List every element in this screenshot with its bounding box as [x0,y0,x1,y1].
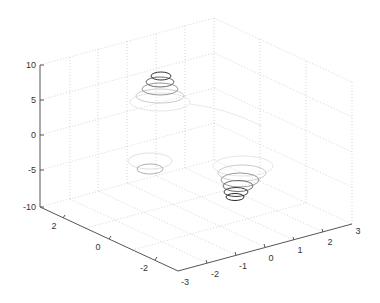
plot-area: 10 5 0 -5 -10 2 0 -2 -3 -2 -1 0 1 2 3 [0,0,380,303]
svg-text:1: 1 [297,245,302,255]
secondary-trough-contours [128,153,172,174]
svg-text:-1: -1 [239,261,247,271]
x-tick-labels: -3 -2 -1 0 1 2 3 [181,226,361,287]
svg-text:-5: -5 [28,165,36,175]
svg-text:2: 2 [327,237,332,247]
z-tick-labels: 10 5 0 -5 -10 [23,60,36,212]
svg-text:-2: -2 [211,269,219,279]
axes [40,65,352,271]
svg-text:5: 5 [31,95,36,105]
svg-text:0: 0 [268,253,273,263]
svg-text:3: 3 [355,226,360,236]
svg-text:0: 0 [95,242,100,252]
svg-text:-2: -2 [140,263,148,273]
grid-lines [40,18,352,263]
peak-contours [130,72,262,126]
svg-text:0: 0 [31,130,36,140]
svg-text:2: 2 [51,221,56,231]
x-axis [178,224,352,271]
svg-text:-10: -10 [23,202,36,212]
contour3-chart: 10 5 0 -5 -10 2 0 -2 -3 -2 -1 0 1 2 3 [0,0,380,303]
deep-trough-contours [213,156,273,201]
svg-text:10: 10 [26,60,36,70]
svg-text:-3: -3 [181,277,189,287]
